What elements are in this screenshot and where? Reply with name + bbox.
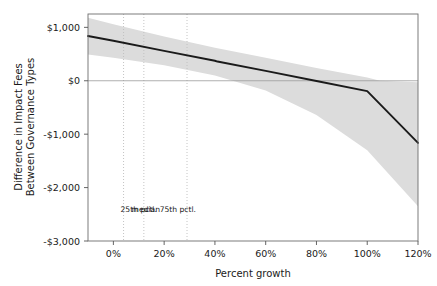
y-axis-title-line1: Difference in Impact Fees — [13, 63, 24, 191]
y-tick-label--3000: -$3,000 — [43, 236, 80, 247]
x-tick-label-40%: 40% — [204, 248, 225, 259]
x-tick-label-0%: 0% — [106, 248, 121, 259]
x-tick-label-20%: 20% — [154, 248, 175, 259]
y-tick-label-1000: $1,000 — [47, 22, 80, 33]
chart-figure: 0%20%40%60%80%100%120% $1,000$0-$1,000-$… — [0, 0, 437, 286]
annotation-75th-pctl-: 75th pctl. — [160, 205, 196, 214]
x-tick-label-80%: 80% — [306, 248, 327, 259]
y-axis-title-line2: Between Governance Types — [25, 58, 36, 197]
y-tick-label-0: $0 — [68, 75, 80, 86]
y-tick-label--1000: -$1,000 — [43, 129, 80, 140]
difference-in-impact-fees-chart: 0%20%40%60%80%100%120% $1,000$0-$1,000-$… — [0, 0, 437, 286]
annotation-median: median — [132, 205, 161, 214]
x-axis-title: Percent growth — [215, 268, 291, 279]
x-tick-label-60%: 60% — [255, 248, 276, 259]
percentile-annotations: 25th pctl.median75th pctl. — [121, 205, 196, 214]
x-tick-label-100%: 100% — [354, 248, 381, 259]
x-tick-label-120%: 120% — [404, 248, 431, 259]
y-tick-label--2000: -$2,000 — [43, 182, 80, 193]
